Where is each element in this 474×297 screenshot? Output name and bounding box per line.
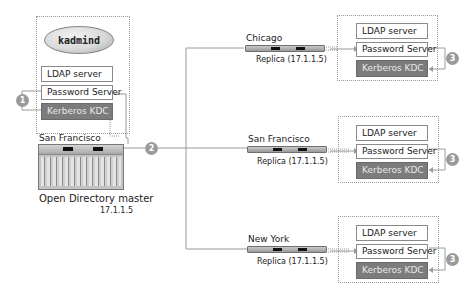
step-1-badge: 1	[16, 94, 29, 107]
replica-ny-location: New York	[248, 235, 289, 244]
service-label: Password Server	[47, 88, 121, 97]
replica-ny-server-icon	[247, 246, 327, 253]
sf-kerberos-kdc: Kerberos KDC	[356, 162, 428, 179]
ny-password-server: Password Server	[356, 244, 428, 259]
service-label: LDAP server	[362, 27, 417, 36]
service-label: Kerberos KDC	[362, 266, 424, 275]
replica-ny-label: Replica (17.1.1.5)	[257, 258, 328, 266]
replica-sf-label: Replica (17.1.1.5)	[257, 158, 328, 166]
replica-chicago-location: Chicago	[246, 34, 282, 43]
master-location-label: San Francisco	[39, 134, 101, 143]
master-ip: 17.1.1.5	[100, 207, 133, 215]
step-2-badge: 2	[145, 142, 158, 155]
kadmind-label: kadmind	[58, 35, 100, 46]
master-title: Open Directory master	[39, 194, 153, 204]
sf-password-server: Password Server	[356, 144, 428, 159]
chicago-password-server: Password Server	[356, 42, 428, 57]
service-label: Kerberos KDC	[362, 166, 424, 175]
chicago-kerberos-kdc: Kerberos KDC	[356, 60, 428, 77]
ny-step-3-badge: 3	[446, 253, 459, 266]
replica-sf-server-icon	[247, 146, 327, 153]
master-ldap-server: LDAP server	[41, 66, 113, 82]
chicago-step-3-badge: 3	[446, 52, 459, 65]
service-label: Password Server	[362, 45, 436, 54]
kadmind-node: kadmind	[44, 26, 114, 54]
replica-sf-location: San Francisco	[248, 135, 310, 144]
service-label: LDAP server	[47, 70, 102, 79]
service-label: Password Server	[362, 147, 436, 156]
service-label: LDAP server	[362, 229, 417, 238]
sf-ldap-server: LDAP server	[356, 125, 428, 141]
service-label: Kerberos KDC	[47, 107, 109, 116]
ny-kerberos-kdc: Kerberos KDC	[356, 262, 428, 279]
sf-step-3-badge: 3	[446, 153, 459, 166]
ny-ldap-server: LDAP server	[356, 225, 428, 241]
service-label: Password Server	[362, 247, 436, 256]
chicago-ldap-server: LDAP server	[356, 23, 428, 39]
service-label: Kerberos KDC	[362, 64, 424, 73]
service-label: LDAP server	[362, 129, 417, 138]
replica-chicago-label: Replica (17.1.1.5)	[256, 56, 327, 64]
master-server-icon	[38, 144, 124, 190]
replica-chicago-server-icon	[245, 45, 325, 52]
master-kerberos-kdc: Kerberos KDC	[41, 103, 113, 120]
master-password-server: Password Server	[41, 85, 113, 100]
